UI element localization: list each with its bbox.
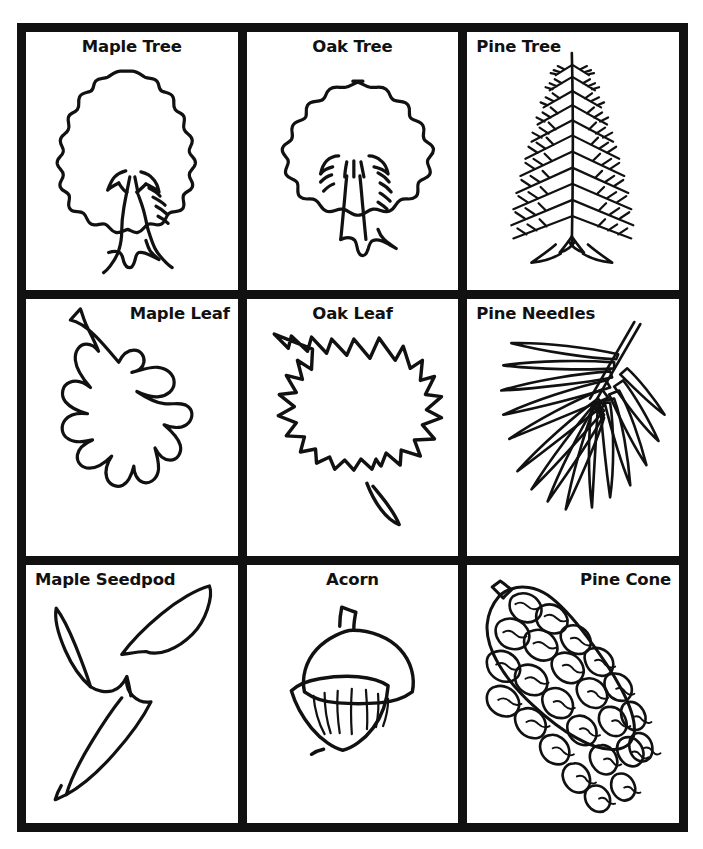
card-acorn[interactable]: Acorn <box>247 565 459 823</box>
card-pine-needles[interactable]: Pine Needles <box>467 299 679 557</box>
card-maple-seedpod[interactable]: Maple Seedpod <box>26 565 238 823</box>
acorn-icon <box>247 565 459 823</box>
card-oak-tree[interactable]: Oak Tree <box>247 32 459 290</box>
card-maple-tree[interactable]: Maple Tree <box>26 32 238 290</box>
pine-needles-icon <box>467 299 679 557</box>
pine-cone-icon <box>467 565 679 823</box>
maple-leaf-icon <box>26 299 238 557</box>
maple-tree-icon <box>26 32 238 290</box>
card-pine-tree[interactable]: Pine Tree <box>467 32 679 290</box>
pine-tree-icon <box>467 32 679 290</box>
card-oak-leaf[interactable]: Oak Leaf <box>247 299 459 557</box>
oak-tree-icon <box>247 32 459 290</box>
maple-seedpod-icon <box>26 565 238 823</box>
card-maple-leaf[interactable]: Maple Leaf <box>26 299 238 557</box>
oak-leaf-icon <box>247 299 459 557</box>
card-grid: Maple Tree <box>17 23 688 832</box>
card-pine-cone[interactable]: Pine Cone <box>467 565 679 823</box>
worksheet-sheet: Maple Tree <box>0 0 703 849</box>
